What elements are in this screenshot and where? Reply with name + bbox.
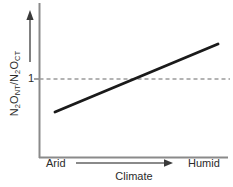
y-axis-label-sub1: 2 xyxy=(13,104,22,108)
y-axis-label-sub-ct: CT xyxy=(13,51,22,61)
y-axis-label-n2: N xyxy=(8,74,20,82)
data-series-line xyxy=(55,44,218,112)
y-direction-arrow-head xyxy=(26,10,33,20)
y-axis-label-sub-nt: NT xyxy=(13,85,22,95)
x-axis-title: Climate xyxy=(39,171,229,182)
x-direction-arrow-head xyxy=(164,159,173,167)
y-axis-label-o2: O xyxy=(8,61,20,70)
y-axis-label: N2ONT/N2OCT xyxy=(9,43,20,125)
x-axis-label-arid: Arid xyxy=(46,158,66,169)
chart-figure: N2ONT/N2OCT 1 Arid Humid Climate xyxy=(0,0,233,187)
y-tick-label-1: 1 xyxy=(22,73,34,84)
y-axis-label-n1: N xyxy=(8,108,20,116)
y-axis-label-sub2: 2 xyxy=(13,70,22,74)
x-axis-label-humid: Humid xyxy=(188,158,220,169)
